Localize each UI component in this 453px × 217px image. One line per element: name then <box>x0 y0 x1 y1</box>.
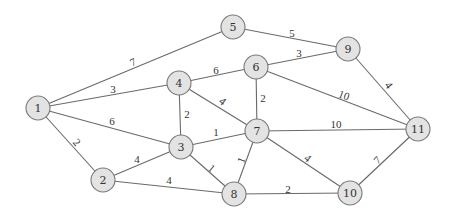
node-1: 1 <box>26 96 50 120</box>
edge-weight-1-4: 3 <box>110 83 116 95</box>
edge-weight-9-11: 4 <box>383 79 396 91</box>
edge-weight-8-10: 2 <box>285 183 291 195</box>
edge-weight-7-11: 10 <box>331 118 343 130</box>
edge-weight-6-9: 3 <box>296 47 302 59</box>
edge-weight-3-8: 1 <box>206 162 218 175</box>
node-3: 3 <box>169 135 193 159</box>
node-label: 3 <box>178 141 185 154</box>
edge-4-7 <box>179 83 257 131</box>
node-7: 7 <box>245 119 269 143</box>
node-2: 2 <box>91 168 115 192</box>
node-label: 5 <box>230 21 237 34</box>
node-label: 11 <box>411 123 425 136</box>
node-4: 4 <box>167 71 191 95</box>
graph-diagram: 73624421164532104101427 1234567891011 <box>0 0 453 217</box>
edge-weight-3-7: 1 <box>213 126 219 138</box>
edge-weight-5-9: 5 <box>289 27 295 39</box>
node-label: 9 <box>345 43 352 56</box>
node-label: 2 <box>100 174 107 187</box>
edge-1-4 <box>38 83 179 108</box>
node-label: 4 <box>176 77 183 90</box>
edge-1-5 <box>38 27 233 108</box>
node-8: 8 <box>222 182 246 206</box>
edge-weight-1-5: 7 <box>128 55 139 68</box>
edge-weight-7-8: 1 <box>234 155 247 164</box>
edge-1-3 <box>38 108 181 147</box>
edge-weight-6-11: 10 <box>337 87 352 102</box>
node-10: 10 <box>338 181 362 205</box>
node-11: 11 <box>406 117 430 141</box>
edges-layer <box>38 27 418 194</box>
edge-weight-3-4: 2 <box>184 108 190 120</box>
edge-8-10 <box>234 193 350 194</box>
node-6: 6 <box>244 55 268 79</box>
node-label: 10 <box>343 187 357 200</box>
node-9: 9 <box>336 37 360 61</box>
edge-weight-4-7: 4 <box>217 95 229 108</box>
edge-weight-10-11: 7 <box>371 153 384 166</box>
edge-9-11 <box>348 49 418 129</box>
edge-weight-4-6: 6 <box>213 64 219 76</box>
node-label: 8 <box>231 188 238 201</box>
edge-weight-2-8: 4 <box>166 174 172 186</box>
edge-6-9 <box>256 49 348 67</box>
node-label: 6 <box>253 61 260 74</box>
node-label: 1 <box>35 102 42 115</box>
edge-10-11 <box>350 129 418 193</box>
edge-1-2 <box>38 108 103 180</box>
edge-weight-1-3: 6 <box>109 115 115 127</box>
edge-weight-2-3: 4 <box>134 153 140 165</box>
node-label: 7 <box>254 125 261 138</box>
edge-weight-6-7: 2 <box>260 92 266 104</box>
node-5: 5 <box>221 15 245 39</box>
